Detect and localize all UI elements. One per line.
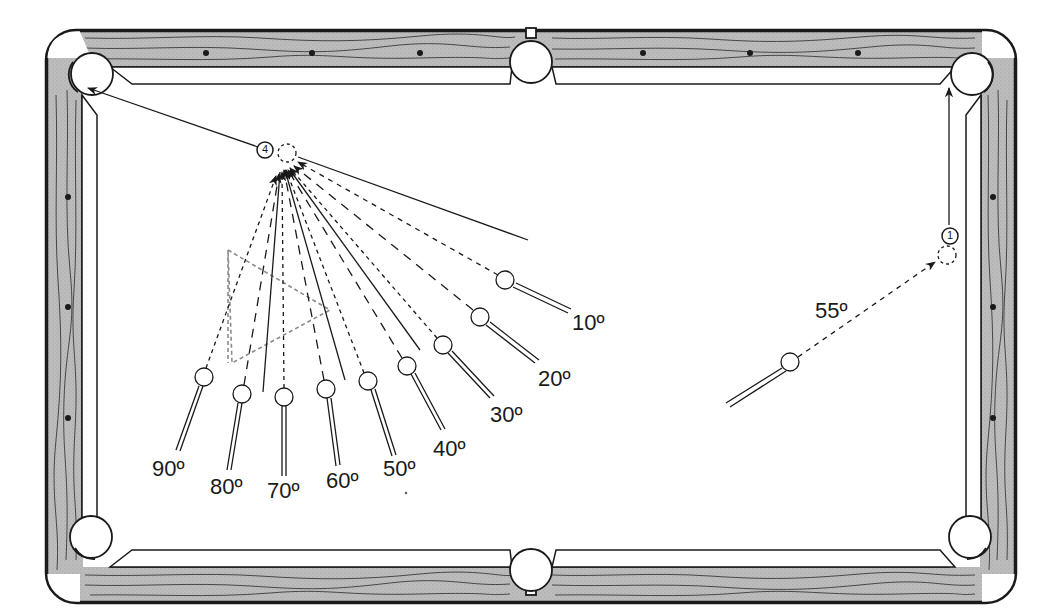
pocket-top-right [951, 53, 993, 95]
ghost-ball-4 [278, 144, 296, 162]
angle-label-90: 90º [152, 458, 185, 480]
angle-label-60: 60º [326, 470, 359, 492]
pocket-bottom-right [949, 516, 991, 559]
ball-number-4: 4 [258, 144, 272, 155]
angle-label-50: 50º [383, 458, 416, 480]
stray-dot [405, 492, 407, 494]
left-rail [47, 58, 83, 574]
angle-label-40: 40º [433, 438, 466, 460]
pocket-bottom-left [70, 516, 112, 559]
angle-label-10: 10º [572, 312, 605, 334]
angle-label-55: 55º [815, 300, 848, 322]
diagram-canvas [0, 0, 1062, 611]
pool-table-diagram: 4 1 10º 20º 30º 40º 50º 60º 70º 80º 90º … [0, 0, 1062, 611]
angle-label-30: 30º [490, 404, 523, 426]
cue-ball-55 [781, 353, 799, 371]
ball-number-1: 1 [943, 230, 957, 241]
angle-label-20: 20º [538, 368, 571, 390]
angle-label-70: 70º [267, 480, 300, 502]
ghost-ball-1 [938, 246, 956, 264]
table-frame [46, 30, 1016, 603]
angle-label-80: 80º [210, 476, 243, 498]
